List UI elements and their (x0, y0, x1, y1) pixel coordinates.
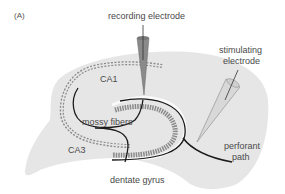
hippocampal-slice (25, 52, 268, 190)
label-stimulating: stimulating (219, 45, 262, 55)
label-electrode: electrode (223, 56, 260, 66)
label-mossy-fibers: mossy fibers (82, 117, 133, 127)
label-dentate-gyrus: dentate gyrus (110, 175, 165, 185)
label-perforant: perforant (224, 141, 261, 151)
label-ca1: CA1 (100, 74, 118, 84)
label-path: path (232, 152, 250, 162)
label-ca3: CA3 (68, 145, 86, 155)
hippocampus-diagram: (A) recording electrode stimulating elec… (0, 0, 285, 194)
panel-label: (A) (14, 11, 25, 20)
label-recording-electrode: recording electrode (108, 11, 185, 21)
